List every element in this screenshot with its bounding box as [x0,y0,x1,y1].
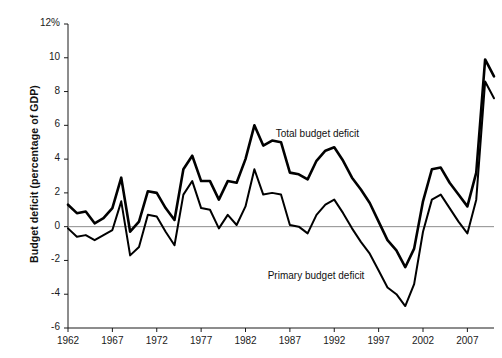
y-axis-title: Budget deficit (percentage of GDP) [28,69,40,279]
y-tick-label: -2 [20,253,60,264]
y-tick-label: 0 [20,220,60,231]
x-tick-label: 1962 [45,335,91,346]
x-tick-marks [68,328,467,332]
x-tick-label: 1987 [267,335,313,346]
y-tick-label: 6 [20,118,60,129]
data-line-total-budget-deficit [68,59,494,267]
x-tick-label: 1997 [356,335,402,346]
x-tick-label: 2007 [444,335,490,346]
y-tick-label: -4 [20,287,60,298]
y-tick-label: 2 [20,186,60,197]
series-label-primary-budget-deficit: Primary budget deficit [268,270,365,281]
y-tick-marks [64,24,68,328]
series-label-total-budget-deficit: Total budget deficit [276,128,359,139]
x-tick-label: 2002 [400,335,446,346]
x-tick-label: 1992 [311,335,357,346]
y-tick-label: 4 [20,152,60,163]
y-tick-label: 10 [20,51,60,62]
data-series-group [68,59,494,306]
x-tick-label: 1972 [134,335,180,346]
chart-figure: Budget deficit (percentage of GDP) 12%10… [0,0,502,358]
x-tick-label: 1977 [178,335,224,346]
y-tick-label: -6 [20,321,60,332]
x-tick-label: 1967 [89,335,135,346]
chart-plot-area [0,0,502,358]
y-tick-label: 12% [20,17,60,28]
y-tick-label: 8 [20,85,60,96]
x-tick-label: 1982 [223,335,269,346]
